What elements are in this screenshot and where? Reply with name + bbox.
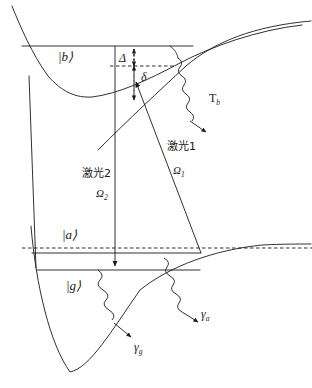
laser1-rabi-sub: 1: [181, 170, 185, 179]
angle-arc-marker: [170, 46, 178, 58]
detuning-label-delta: δ: [141, 71, 147, 83]
laser2-label: 激光2: [82, 168, 111, 179]
decay-arrow-tb-tip: [190, 121, 206, 132]
detuning-label-Delta: Δ: [119, 52, 126, 64]
decay-label-gamma-g-sub: g: [139, 347, 143, 356]
energy-level-diagram: |b⟩ |a⟩ |g⟩ Δ δ 激光1 Ω1 激光2 Ω2 Tb γa γg: [0, 0, 312, 388]
state-label-g: |g⟩: [66, 279, 81, 292]
decay-arrow-gamma-g: [98, 270, 114, 320]
diagram-canvas: [0, 0, 312, 388]
laser2-rabi-sub: 2: [104, 193, 108, 202]
decay-label-tb-sub: b: [216, 98, 220, 107]
laser2-rabi-label: Ω2: [96, 188, 108, 202]
laser1-rabi-label: Ω1: [173, 165, 185, 179]
decay-label-gamma-a: γa: [201, 308, 209, 323]
decay-arrow-tb: [178, 58, 194, 121]
state-label-a: |a⟩: [62, 228, 77, 241]
curve-upper-potential-b: [12, 6, 302, 97]
laser1-transition-arrow: [136, 82, 201, 253]
laser1-label: 激光1: [167, 141, 196, 152]
decay-label-gamma-g: γg: [134, 341, 142, 356]
decay-label-gamma-a-sub: a: [206, 314, 210, 323]
decay-arrow-gamma-a-tip: [182, 312, 198, 322]
state-label-b: |b⟩: [58, 50, 73, 63]
decay-arrow-gamma-g-tip: [114, 323, 131, 337]
decay-label-tb: Tb: [209, 92, 220, 107]
